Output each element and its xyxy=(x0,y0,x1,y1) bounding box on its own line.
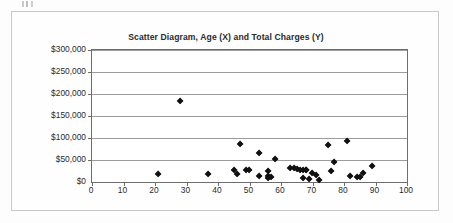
y-axis-tick xyxy=(88,94,92,95)
scatter-point xyxy=(206,171,212,177)
scatter-plot-area xyxy=(91,49,408,183)
x-axis-tick-label: 70 xyxy=(307,185,316,195)
x-axis-tick-label: 40 xyxy=(212,185,221,195)
scatter-point xyxy=(328,168,334,174)
x-axis-tick-label: 50 xyxy=(244,185,253,195)
gridline-y xyxy=(92,138,407,139)
y-axis-tick-label: $250,000 xyxy=(51,66,86,76)
scatter-point xyxy=(369,163,375,169)
scatter-point xyxy=(272,156,278,162)
scatter-point xyxy=(247,167,253,173)
x-axis-tick-label: 30 xyxy=(181,185,190,195)
y-axis-tick-label: $300,000 xyxy=(51,44,86,54)
chart-figure-frame: Scatter Diagram, Age (X) and Total Charg… xyxy=(11,11,439,211)
y-axis-tick xyxy=(88,160,92,161)
scatter-point xyxy=(269,174,275,180)
y-axis-tick-label: $0 xyxy=(77,176,86,186)
scatter-point xyxy=(234,171,240,177)
screenshot-root: Scatter Diagram, Age (X) and Total Charg… xyxy=(0,0,453,223)
scatter-point xyxy=(177,99,183,105)
scatter-point xyxy=(347,173,353,179)
gridline-y xyxy=(92,94,407,95)
y-axis-labels: $0$50,000$100,000$150,000$200,000$250,00… xyxy=(12,49,86,181)
x-axis-tick-label: 10 xyxy=(118,185,127,195)
y-axis-tick xyxy=(88,50,92,51)
gridline-y xyxy=(92,116,407,117)
scatter-point xyxy=(300,175,306,181)
scatter-point xyxy=(316,177,322,183)
y-axis-tick xyxy=(88,138,92,139)
y-axis-tick xyxy=(88,116,92,117)
gridline-y xyxy=(92,50,407,51)
y-axis-tick xyxy=(88,72,92,73)
x-axis-tick-label: 100 xyxy=(399,185,413,195)
x-axis-tick-label: 60 xyxy=(275,185,284,195)
scatter-point xyxy=(155,172,161,178)
y-axis-tick-label: $50,000 xyxy=(56,154,86,164)
chart-title: Scatter Diagram, Age (X) and Total Charg… xyxy=(12,32,440,42)
x-axis-labels: 0102030405060708090100 xyxy=(91,185,406,201)
gridline-y xyxy=(92,72,407,73)
gridline-y xyxy=(92,160,407,161)
x-axis-tick-label: 0 xyxy=(89,185,94,195)
scatter-point xyxy=(256,150,262,156)
scatter-point xyxy=(237,141,243,147)
x-axis-tick-label: 20 xyxy=(149,185,158,195)
x-axis-tick-label: 90 xyxy=(370,185,379,195)
scatter-point xyxy=(325,142,331,148)
y-axis-tick-label: $150,000 xyxy=(51,110,86,120)
scatter-point xyxy=(306,176,312,182)
y-axis-tick-label: $200,000 xyxy=(51,88,86,98)
x-axis-tick-label: 80 xyxy=(338,185,347,195)
y-axis-tick-label: $100,000 xyxy=(51,132,86,142)
scan-artifact xyxy=(22,1,36,7)
scatter-point xyxy=(256,173,262,179)
